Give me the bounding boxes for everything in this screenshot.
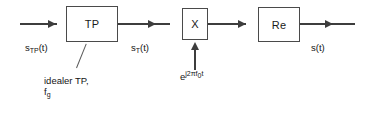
arrowhead-output-icon (325, 20, 333, 28)
signal-input-subscript: TP (30, 47, 39, 54)
cutoff-frequency-subscript: g (47, 91, 51, 98)
signal-filtered-suffix: (t) (140, 42, 149, 53)
annotation-leader-line (76, 44, 87, 69)
carrier-signal-label: ej2πf0t (180, 72, 203, 83)
signal-input-suffix: (t) (39, 42, 48, 53)
wire-carrier-to-multiplier (194, 48, 196, 70)
wire-lowpass-to-multiplier (118, 23, 170, 25)
real-part-label: Re (272, 19, 287, 31)
signal-label-output: s(t) (311, 43, 325, 54)
carrier-exponent-suffix: t (201, 70, 203, 77)
multiplier-block: X (182, 8, 208, 40)
arrowhead-carrier-icon (191, 42, 199, 50)
lowpass-annotation: idealer TP, fg (44, 76, 89, 98)
block-diagram-canvas: TP X Re sTP(t) sT(t) s(t) ej2πf0t ideale… (0, 0, 370, 116)
signal-label-input: sTP(t) (25, 43, 48, 54)
arrowhead-multiplier-to-realpart-icon (238, 20, 246, 28)
lowpass-filter-label: TP (85, 18, 100, 30)
lowpass-filter-block: TP (66, 6, 118, 42)
carrier-exponent-subscript: 0 (198, 72, 202, 79)
signal-label-filtered: sT(t) (131, 43, 149, 54)
annotation-line1: idealer TP, (44, 75, 89, 86)
multiplier-label: X (191, 18, 199, 30)
annotation-line2: fg (44, 87, 89, 98)
carrier-exponent-main: j2πf (185, 70, 197, 77)
real-part-block: Re (258, 7, 300, 42)
carrier-exponent: j2πf0t (185, 70, 203, 77)
arrowhead-input-icon (48, 20, 56, 28)
signal-filtered-subscript: T (136, 47, 140, 54)
arrowhead-lowpass-to-multiplier-icon (148, 20, 156, 28)
signal-output-suffix: (t) (316, 42, 325, 53)
